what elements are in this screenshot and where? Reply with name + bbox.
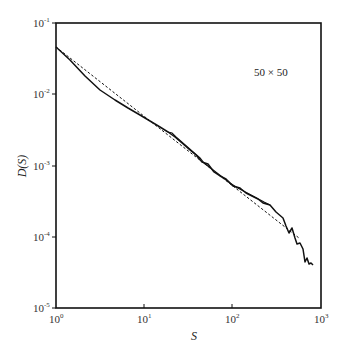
y-tick-label: 10-5 [33,301,50,314]
x-tick-label: 100 [49,312,64,325]
x-axis-label: S [191,329,197,343]
x-tick-label: 101 [137,312,152,325]
loglog-chart: 10-1 10-2 10-3 10-4 10-5 100 101 102 103… [0,0,344,348]
y-axis-label: D(S) [15,155,29,179]
x-tick-label: 102 [225,312,240,325]
y-tick-label: 10-1 [33,16,50,29]
x-tick-labels: 100 101 102 103 [49,312,329,325]
y-tick-label: 10-4 [33,230,50,243]
data-curve-detail [168,132,270,205]
grid-size-annotation: 50 × 50 [254,66,288,78]
y-tick-labels: 10-1 10-2 10-3 10-4 10-5 [33,16,50,314]
y-tick-label: 10-3 [33,159,50,172]
data-curve [56,47,313,265]
x-tick-label: 103 [314,312,329,325]
y-tick-label: 10-2 [33,87,50,100]
